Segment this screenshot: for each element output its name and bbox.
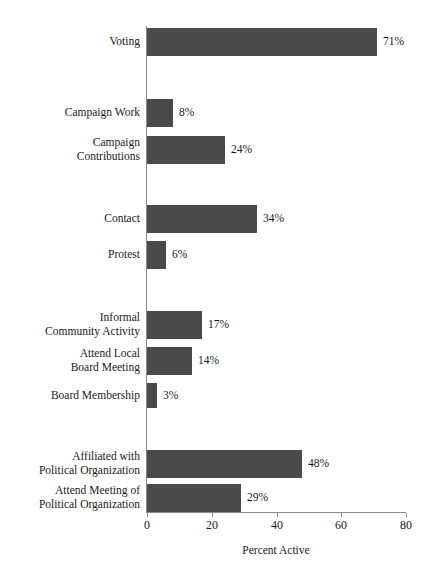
x-axis-tick-label: 80 <box>391 518 421 533</box>
x-axis-tick <box>212 513 213 517</box>
bar <box>147 311 202 339</box>
x-axis-tick-label: 60 <box>326 518 356 533</box>
bar-chart: Voting71%Campaign Work8%Campaign Contrib… <box>0 0 437 578</box>
bar-value-label: 29% <box>247 491 268 503</box>
bar-category-label: Campaign Work <box>8 106 140 120</box>
bar-value-label: 3% <box>163 389 178 401</box>
bar-category-label: Protest <box>8 248 140 262</box>
x-axis-tick <box>341 513 342 517</box>
bar <box>147 450 302 478</box>
bar-value-label: 48% <box>308 457 329 469</box>
x-axis-tick <box>147 513 148 517</box>
bar <box>147 484 241 512</box>
bar-value-label: 14% <box>198 354 219 366</box>
bar-category-label: Attend Local Board Meeting <box>8 347 140 374</box>
x-axis-tick <box>277 513 278 517</box>
bar <box>147 383 157 408</box>
x-axis-tick-label: 0 <box>132 518 162 533</box>
bar-value-label: 34% <box>263 212 284 224</box>
bar-value-label: 8% <box>179 106 194 118</box>
bar-category-label: Affiliated with Political Organization <box>8 450 140 477</box>
x-axis-line <box>146 512 406 513</box>
x-axis-tick <box>406 513 407 517</box>
bar-value-label: 6% <box>172 248 187 260</box>
bar-category-label: Board Membership <box>8 389 140 403</box>
bar <box>147 347 192 375</box>
bar-category-label: Voting <box>8 35 140 49</box>
bar <box>147 99 173 127</box>
x-axis-title: Percent Active <box>146 544 406 556</box>
bar <box>147 241 166 269</box>
bar-category-label: Attend Meeting of Political Organization <box>8 484 140 511</box>
bar <box>147 28 377 56</box>
bar-category-label: Campaign Contributions <box>8 136 140 163</box>
x-axis-tick-label: 20 <box>197 518 227 533</box>
bar <box>147 136 225 164</box>
x-axis-tick-label: 40 <box>262 518 292 533</box>
bar-value-label: 17% <box>208 318 229 330</box>
bar-category-label: Informal Community Activity <box>8 311 140 338</box>
bar-value-label: 71% <box>383 35 404 47</box>
bar-value-label: 24% <box>231 143 252 155</box>
bar <box>147 205 257 233</box>
bar-category-label: Contact <box>8 212 140 226</box>
plot-area: Voting71%Campaign Work8%Campaign Contrib… <box>0 0 437 578</box>
